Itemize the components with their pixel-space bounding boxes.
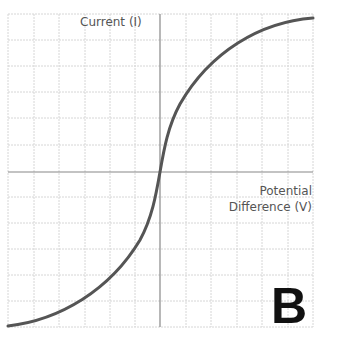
y-axis-label: Current (I) (80, 15, 142, 30)
x-axis-label-line2: Difference (V) (229, 200, 312, 215)
x-axis-label-line1: Potential (259, 184, 312, 199)
panel-label: B (271, 281, 307, 331)
